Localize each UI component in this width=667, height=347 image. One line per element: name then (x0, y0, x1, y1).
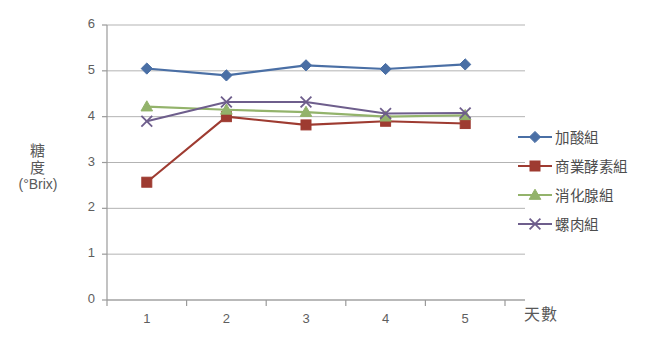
legend-item-3[interactable]: 螺肉組 (518, 209, 663, 238)
y-tick-label-6: 6 (69, 16, 95, 31)
legend-key-x-icon (518, 216, 552, 232)
x-tick-label-2: 2 (214, 311, 238, 326)
y-tick-label-1: 1 (69, 245, 95, 260)
y-tick-label-0: 0 (69, 291, 95, 306)
series-0 (141, 59, 471, 81)
legend-0-diamond-marker (529, 131, 540, 142)
y-tick-label-2: 2 (69, 199, 95, 214)
series-0-point-0-diamond-marker (141, 63, 152, 74)
legend-marker-x-icon (518, 216, 552, 232)
y-axis-title-line-1: 糖 (2, 143, 74, 160)
legend-2-triangle-marker (529, 189, 541, 199)
legend-label-0: 加酸組 (555, 126, 599, 147)
series-0-point-2-diamond-marker (300, 60, 311, 71)
y-tick-label-3: 3 (69, 154, 95, 169)
x-tick-label-4: 4 (374, 311, 398, 326)
series-0-point-4-diamond-marker (460, 59, 471, 70)
x-tick-label-5: 5 (453, 311, 477, 326)
sugar-content-line-chart: 糖 度 (°Brix) 天數 0123456 12345 加酸組商業酵素組消化腺… (0, 0, 667, 347)
legend-label-2: 消化腺組 (555, 184, 613, 205)
legend-item-0[interactable]: 加酸組 (518, 122, 663, 151)
series-0-point-3-diamond-marker (380, 63, 391, 74)
y-axis-title-line-2: 度 (2, 160, 74, 177)
x-axis-title: 天數 (524, 301, 558, 325)
legend-key-triangle-icon (518, 187, 552, 203)
legend-3-x-marker (530, 218, 541, 229)
x-tick-label-1: 1 (135, 311, 159, 326)
legend-key-square-icon (518, 158, 552, 174)
y-axis-title-line-3: (°Brix) (2, 177, 74, 193)
legend-item-2[interactable]: 消化腺組 (518, 180, 663, 209)
legend-key-diamond-icon (518, 129, 552, 145)
series-0-point-1-diamond-marker (221, 70, 232, 81)
series-1 (142, 112, 470, 188)
legend-marker-diamond-icon (518, 129, 552, 145)
series-1-point-0-square-marker (142, 177, 152, 187)
legend-marker-square-icon (518, 158, 552, 174)
legend-1-square-marker (530, 161, 540, 171)
legend-item-1[interactable]: 商業酵素組 (518, 151, 663, 180)
y-tick-label-5: 5 (69, 62, 95, 77)
x-tick-label-3: 3 (294, 311, 318, 326)
chart-legend: 加酸組商業酵素組消化腺組螺肉組 (518, 122, 663, 238)
y-axis-title: 糖 度 (°Brix) (2, 143, 74, 192)
y-tick-label-4: 4 (69, 108, 95, 123)
series-1-point-2-square-marker (301, 120, 311, 130)
legend-marker-triangle-icon (518, 187, 552, 203)
legend-label-3: 螺肉組 (555, 213, 599, 234)
legend-label-1: 商業酵素組 (555, 155, 628, 176)
